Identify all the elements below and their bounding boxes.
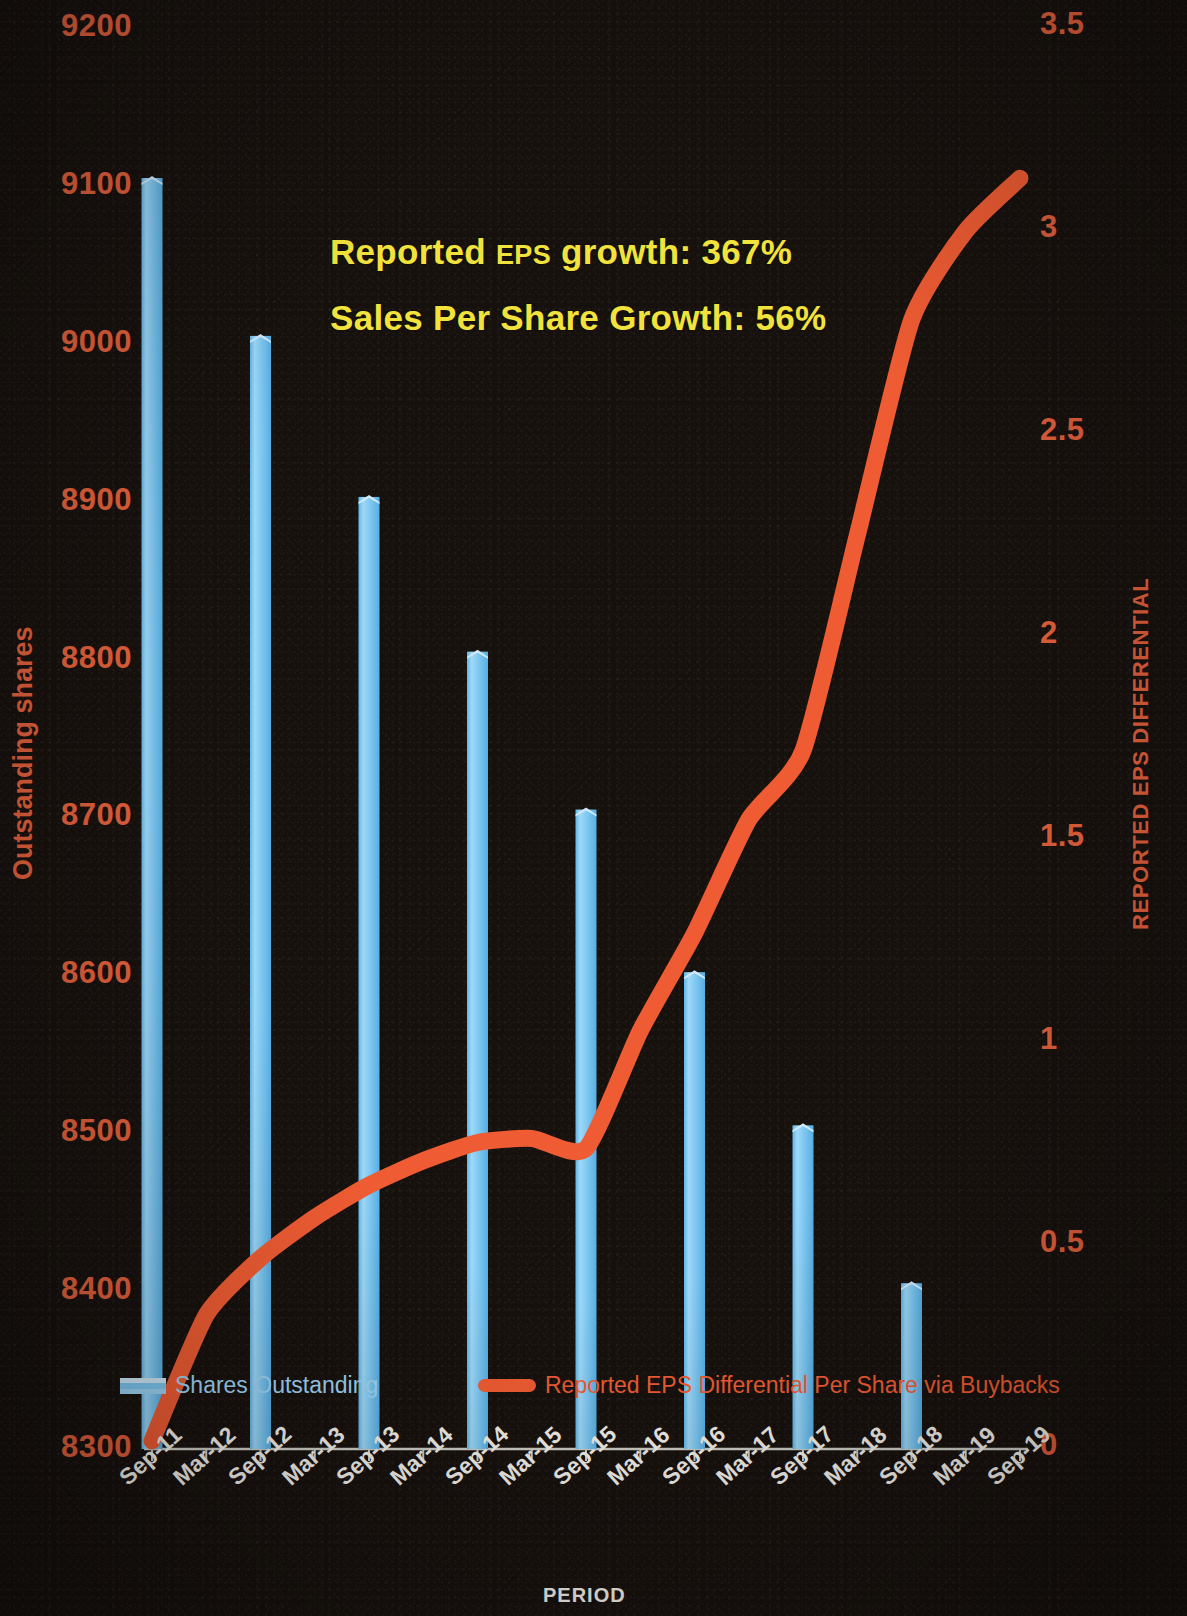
legend-swatch-line-icon xyxy=(478,1379,536,1392)
legend-item-reported-eps-differential[interactable]: Reported EPS Differential Per Share via … xyxy=(478,1372,1060,1399)
y-axis-left-tick: 8500 xyxy=(12,1113,132,1149)
bar-shares-outstanding[interactable] xyxy=(250,334,271,1449)
bar-body xyxy=(793,1125,814,1449)
y-axis-right-tick: 0 xyxy=(1040,1427,1130,1463)
y-axis-left-tick: 9000 xyxy=(12,324,132,360)
bar-shares-outstanding[interactable] xyxy=(359,495,380,1449)
legend-swatch-bar-icon xyxy=(120,1378,166,1394)
y-axis-left-tick: 8900 xyxy=(12,482,132,518)
bar-body xyxy=(142,178,163,1449)
annotation-eps-growth-main: Reported xyxy=(330,232,496,271)
bar-body xyxy=(359,497,380,1449)
y-axis-right-tick: 3 xyxy=(1040,209,1130,245)
bar-body xyxy=(901,1283,922,1449)
y-axis-left-title: Outstanding shares xyxy=(8,626,39,880)
y-axis-left-tick: 8400 xyxy=(12,1271,132,1307)
annotation-eps-growth-rest: growth: 367% xyxy=(551,232,792,271)
y-axis-left-tick: 8600 xyxy=(12,955,132,991)
y-axis-right-tick: 1.5 xyxy=(1040,818,1130,854)
bar-shares-outstanding[interactable] xyxy=(142,176,163,1449)
annotation-eps-growth-acronym: EPS xyxy=(496,240,551,270)
legend-label-reported-eps-differential: Reported EPS Differential Per Share via … xyxy=(545,1372,1060,1399)
y-axis-right-tick: 2.5 xyxy=(1040,412,1130,448)
y-axis-right-tick: 0.5 xyxy=(1040,1224,1130,1260)
annotation-sales-per-share-growth: Sales Per Share Growth: 56% xyxy=(330,298,826,338)
y-axis-right-tick: 2 xyxy=(1040,615,1130,651)
bar-shares-outstanding[interactable] xyxy=(467,650,488,1449)
y-axis-left-tick: 9200 xyxy=(12,8,132,44)
bar-body xyxy=(467,652,488,1449)
y-axis-left-tick: 9100 xyxy=(12,166,132,202)
legend-item-shares-outstanding[interactable]: Shares Outstanding xyxy=(120,1372,378,1399)
annotation-eps-growth: Reported EPS growth: 367% xyxy=(330,232,792,272)
y-axis-right-tick: 1 xyxy=(1040,1021,1130,1057)
x-axis-title: PERIOD xyxy=(543,1584,626,1607)
bar-shares-outstanding[interactable] xyxy=(901,1281,922,1449)
bar-shares-outstanding[interactable] xyxy=(793,1123,814,1449)
y-axis-right-tick: 3.5 xyxy=(1040,6,1130,42)
bar-body xyxy=(250,336,271,1449)
y-axis-left-tick: 8300 xyxy=(12,1429,132,1465)
legend-label-shares-outstanding: Shares Outstanding xyxy=(175,1372,378,1399)
y-axis-right-title: REPORTED EPS DIFFERENTIAL xyxy=(1128,578,1154,930)
